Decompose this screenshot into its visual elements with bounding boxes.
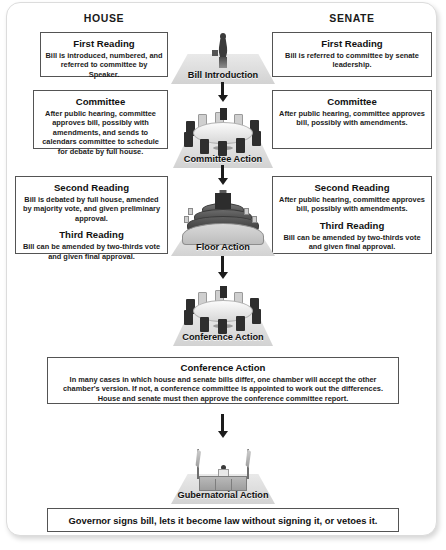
house-committee-title: Committee	[38, 96, 163, 108]
flag-icon-right	[245, 449, 250, 479]
diagram-root: HOUSE SENATE First Reading Bill is intro…	[0, 0, 446, 550]
stage-committee-action: Committee Action	[168, 102, 278, 168]
legislative-chamber-icon	[182, 193, 264, 245]
house-second-reading-body: Bill is debated by full house, amended b…	[20, 195, 163, 223]
senate-second-third-reading-box: Second Reading After public hearing, com…	[272, 176, 432, 254]
senate-first-reading-body: Bill is referred to committee by senate …	[277, 51, 427, 70]
governor-outcome-text: Governor signs bill, lets it become law …	[69, 515, 378, 527]
governor-desk-icon	[191, 447, 255, 491]
senate-first-reading-box: First Reading Bill is referred to commit…	[272, 32, 432, 77]
senate-committee-box: Committee After public hearing, committe…	[272, 90, 432, 149]
conference-action-box: Conference Action In many cases in which…	[47, 357, 399, 404]
arrow-down-icon-1	[221, 82, 224, 96]
column-header-senate: SENATE	[272, 12, 432, 24]
stage-gubernatorial-action: Gubernatorial Action	[168, 440, 278, 504]
stage-label-committee-action: Committee Action	[168, 154, 278, 164]
stage-label-conference-action: Conference Action	[168, 332, 278, 342]
round-table-meeting-icon	[184, 112, 262, 154]
house-third-reading-title: Third Reading	[20, 229, 163, 241]
house-first-reading-title: First Reading	[45, 38, 163, 50]
legislator-figure-icon	[215, 33, 231, 67]
conference-action-body: In many cases in which house and senate …	[52, 375, 394, 403]
gubernatorial-action-platform: Gubernatorial Action	[168, 440, 278, 504]
floor-action-platform: Floor Action	[168, 184, 278, 256]
house-committee-body: After public hearing, committee approves…	[38, 109, 163, 156]
senate-second-reading-body: After public hearing, committee approves…	[277, 195, 427, 214]
conference-table-icon	[184, 290, 262, 332]
house-third-reading-body: Bill can be amended by two-thirds vote a…	[20, 242, 163, 261]
committee-action-platform: Committee Action	[168, 102, 278, 168]
flag-icon-left	[195, 449, 200, 479]
house-second-third-reading-box: Second Reading Bill is debated by full h…	[15, 176, 168, 254]
senate-second-reading-title: Second Reading	[277, 182, 427, 194]
house-committee-box: Committee After public hearing, committe…	[33, 90, 168, 149]
stage-label-gubernatorial-action: Gubernatorial Action	[168, 490, 278, 500]
stage-bill-introduction: Bill Introduction	[168, 22, 278, 84]
senate-third-reading-title: Third Reading	[277, 220, 427, 232]
arrow-down-icon-2	[221, 165, 224, 179]
conference-action-title: Conference Action	[52, 362, 394, 374]
senate-third-reading-body: Bill can be amended by two-thirds vote a…	[277, 233, 427, 252]
house-first-reading-box: First Reading Bill is introduced, number…	[40, 32, 168, 77]
stage-floor-action: Floor Action	[168, 184, 278, 256]
stage-conference-action: Conference Action	[168, 280, 278, 346]
house-second-reading-title: Second Reading	[20, 182, 163, 194]
governor-outcome-box: Governor signs bill, lets it become law …	[47, 508, 399, 532]
senate-committee-body: After public hearing, committee approves…	[277, 109, 427, 128]
bill-introduction-platform: Bill Introduction	[168, 22, 278, 84]
house-first-reading-body: Bill is introduced, numbered, and referr…	[45, 51, 163, 79]
senate-first-reading-title: First Reading	[277, 38, 427, 50]
conference-action-platform: Conference Action	[168, 280, 278, 346]
stage-label-floor-action: Floor Action	[168, 242, 278, 252]
arrow-down-icon-4	[221, 414, 224, 432]
arrow-down-icon-3	[221, 256, 224, 273]
senate-committee-title: Committee	[277, 96, 427, 108]
stage-label-bill-introduction: Bill Introduction	[168, 70, 278, 80]
column-header-house: HOUSE	[40, 12, 168, 24]
